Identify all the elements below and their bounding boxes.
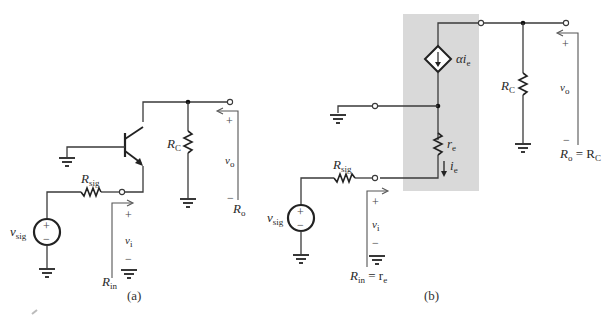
rc-label: RC [500, 78, 515, 95]
input-terminal [119, 189, 124, 194]
ro-label: Ro [232, 201, 246, 218]
circuit-figure: Rsig + − vsig + vi − Rin RC + vo − R [0, 0, 613, 317]
vo-plus: + [226, 114, 233, 128]
vo-label: vo [560, 81, 570, 96]
ro-equation: Ro = RC [559, 146, 601, 163]
vo-minus: − [563, 133, 570, 147]
source-plus: + [297, 205, 304, 219]
base-wire [67, 147, 125, 157]
output-terminal [563, 20, 568, 25]
vi-label: vi [372, 218, 380, 233]
rc-label: RC [166, 136, 181, 153]
stray-mark [32, 310, 37, 314]
source-plus: + [43, 219, 50, 233]
source-minus: − [297, 218, 304, 232]
rsig-resistor [81, 188, 101, 196]
panel-b: αie re ie Rsig + − vsig [267, 14, 601, 303]
rsig-resistor [334, 174, 355, 182]
rsig-label: Rsig [80, 171, 100, 188]
rsig-label: Rsig [332, 157, 352, 174]
ground-icon [330, 115, 346, 123]
base-terminal [372, 103, 377, 108]
vi-plus: + [372, 195, 379, 209]
caption-b: (b) [424, 288, 439, 303]
vo-label: vo [225, 154, 235, 169]
output-terminal [227, 99, 232, 104]
vi-plus: + [125, 208, 132, 222]
source-minus: − [43, 232, 50, 246]
bjt-transistor [125, 127, 143, 166]
vi-minus: − [125, 252, 132, 266]
ground-icon [59, 158, 75, 166]
emitter-wire [125, 166, 143, 192]
collector-terminal [478, 20, 483, 25]
caption-a: (a) [127, 288, 141, 303]
vsig-label: vsig [10, 224, 27, 241]
rin-equation: Rin = re [349, 268, 387, 285]
vsig-label: vsig [267, 210, 284, 227]
ground-icon [369, 256, 385, 264]
ground-icon [180, 199, 196, 207]
rc-resistor [519, 73, 527, 95]
vo-plus: + [562, 37, 569, 51]
rc-resistor [184, 131, 192, 153]
input-terminal [372, 175, 377, 180]
vi-label: vi [125, 234, 133, 249]
shaded-model-box [403, 14, 479, 191]
collector-wire [143, 102, 230, 122]
ground-icon [39, 269, 55, 277]
panel-a: Rsig + − vsig + vi − Rin RC + vo − R [10, 99, 246, 314]
ground-icon [293, 255, 309, 263]
vi-minus: − [372, 236, 379, 250]
rin-label: Rin [101, 274, 117, 291]
ground-icon [121, 270, 137, 278]
ground-icon [515, 144, 531, 152]
